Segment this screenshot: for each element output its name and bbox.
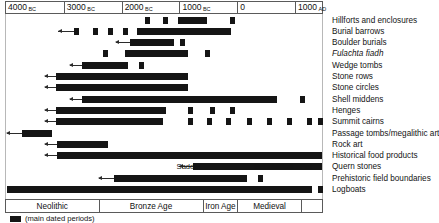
open-start-arrow xyxy=(58,31,74,32)
category-label-shell-middens: Shell middens xyxy=(332,95,383,104)
date-marker xyxy=(123,28,128,35)
category-label-prehistoric-field-boundaries: Prehistoric field boundaries xyxy=(332,174,431,183)
category-label-henges: Henges xyxy=(332,106,360,115)
axis-tick-1000-ad: 1000AD xyxy=(295,2,324,13)
timeline-plot-area: SaddleBeehiveDisc&Pot xyxy=(5,14,323,199)
date-range-bar xyxy=(57,141,107,148)
axis-tick-label: 0 xyxy=(238,3,245,12)
category-label-stone-rows: Stone rows xyxy=(332,72,373,81)
legend-swatch-main-dated-periods xyxy=(10,216,21,222)
annotation-pot: Pot xyxy=(300,163,311,171)
timeline-row xyxy=(6,105,322,116)
axis-tick-label: 3000BC xyxy=(65,3,95,13)
timeline-row xyxy=(6,173,322,184)
timeline-row xyxy=(6,94,322,105)
date-marker xyxy=(318,118,323,125)
date-range-bar xyxy=(82,96,277,103)
open-start-arrow xyxy=(45,144,58,145)
open-start-arrow xyxy=(7,133,23,134)
date-marker xyxy=(287,118,292,125)
category-label-rock-art: Rock art xyxy=(332,140,362,149)
period-iron-age: Iron Age xyxy=(203,200,238,212)
axis-tick-1000-bc: 1000BC xyxy=(179,2,237,13)
date-marker xyxy=(230,17,235,24)
timeline-row xyxy=(6,128,322,139)
axis-tick-4000-bc: 4000BC xyxy=(6,2,64,13)
date-marker xyxy=(247,118,252,125)
category-label-fulachta-fiadh: Fulachta fiadh xyxy=(332,49,383,58)
date-marker xyxy=(103,50,108,57)
category-label-burial-barrows: Burial barrows xyxy=(332,27,384,36)
legend-label-main-dated-periods: (main dated periods) xyxy=(25,215,95,223)
timeline-row xyxy=(6,48,322,59)
date-range-bar xyxy=(137,28,232,35)
date-marker xyxy=(318,186,323,193)
period-neolithic: Neolithic xyxy=(6,200,99,212)
date-marker xyxy=(267,118,272,125)
axis-tick-label: 1000BC xyxy=(180,3,210,13)
open-start-arrow xyxy=(45,155,58,156)
timeline-row xyxy=(6,82,322,93)
period-bronze-age: Bronze Age xyxy=(99,200,203,212)
date-marker xyxy=(108,28,113,35)
category-label-passage-tombs-megalithic-art: Passage tombs/megalithic art xyxy=(332,129,439,138)
timeline-row xyxy=(6,139,322,150)
category-label-historical-food-products: Historical food products xyxy=(332,151,418,160)
period-medieval: Medieval xyxy=(237,200,301,212)
date-marker xyxy=(230,107,235,114)
timeline-row xyxy=(6,71,322,82)
date-range-bar xyxy=(56,84,188,91)
timeline-row xyxy=(6,150,322,161)
axis-tick-label: 1000AD xyxy=(296,3,326,13)
annotation-saddle: Saddle xyxy=(177,163,201,171)
axis-tick-0: 0 xyxy=(237,2,295,13)
date-range-bar xyxy=(82,62,128,69)
date-marker xyxy=(180,39,185,46)
category-label-boulder-burials: Boulder burials xyxy=(332,38,387,47)
period-label: Bronze Age xyxy=(130,202,172,211)
date-marker xyxy=(74,28,79,35)
date-marker xyxy=(145,17,150,24)
period-axis: NeolithicBronze AgeIron AgeMedieval xyxy=(5,199,323,213)
category-label-summit-cairns: Summit cairns xyxy=(332,117,384,126)
period-label: Medieval xyxy=(253,202,286,211)
category-label-stone-circles: Stone circles xyxy=(332,83,379,92)
date-marker xyxy=(93,28,98,35)
timeline-row xyxy=(6,37,322,48)
axis-tick-era: BC xyxy=(203,6,211,12)
axis-tick-era: BC xyxy=(145,6,153,12)
axis-tick-label: 4000BC xyxy=(6,3,36,13)
open-start-arrow xyxy=(45,87,56,88)
date-range-bar xyxy=(56,73,188,80)
date-marker xyxy=(163,17,168,24)
category-label-quern-stones: Quern stones xyxy=(332,162,381,171)
date-marker xyxy=(258,175,263,182)
date-marker xyxy=(188,107,193,114)
period-unlabelled xyxy=(301,200,324,212)
annotation--: & xyxy=(288,163,293,171)
date-marker xyxy=(307,118,312,125)
date-range-bar xyxy=(130,39,174,46)
timeline-row xyxy=(6,26,322,37)
chart-legend: (main dated periods) xyxy=(10,215,95,223)
category-label-hillforts-and-enclosures: Hillforts and enclosures xyxy=(332,16,417,25)
period-label: Iron Age xyxy=(205,202,236,211)
axis-tick-era: AD xyxy=(319,6,327,12)
axis-tick-2000-bc: 2000BC xyxy=(122,2,180,13)
timeline-row xyxy=(6,116,322,127)
date-range-bar xyxy=(22,130,51,137)
date-marker xyxy=(188,118,193,125)
date-range-bar xyxy=(178,17,207,24)
date-marker xyxy=(226,118,231,125)
date-marker xyxy=(207,118,212,125)
timeline-row xyxy=(6,15,322,26)
open-start-arrow xyxy=(70,99,82,100)
date-marker xyxy=(139,62,144,69)
axis-tick-3000-bc: 3000BC xyxy=(64,2,122,13)
open-start-arrow xyxy=(45,76,56,77)
date-marker xyxy=(205,50,210,57)
open-start-arrow xyxy=(116,42,130,43)
open-start-arrow xyxy=(70,65,82,66)
date-range-bar xyxy=(114,175,246,182)
